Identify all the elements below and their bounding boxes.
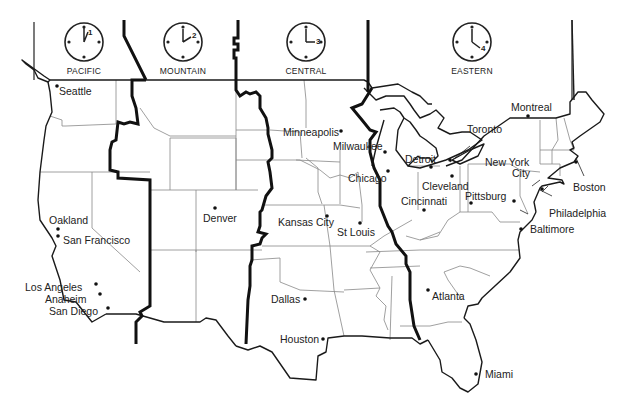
city-label-oakland: Oakland — [49, 215, 88, 226]
zone-label-eastern: EASTERN — [427, 66, 517, 76]
city-label-cincinnati: Cincinnati — [401, 196, 447, 207]
city-label-pittsburg: Pittsburg — [465, 191, 506, 202]
city-label-san-francisco: San Francisco — [63, 235, 130, 246]
city-label-san-diego: San Diego — [49, 306, 98, 317]
clock-eastern — [453, 23, 491, 61]
city-label-houston: Houston — [280, 334, 319, 345]
city-label-kansas-city: Kansas City — [278, 217, 334, 228]
city-label-atlanta: Atlanta — [432, 291, 465, 302]
city-label-minneapolis: Minneapolis — [283, 127, 339, 138]
zone-label-central: CENTRAL — [261, 66, 351, 76]
city-label-cleveland: Cleveland — [422, 181, 469, 192]
city-label-dallas: Dallas — [271, 294, 300, 305]
time-zone-boundaries — [110, 80, 420, 344]
city-label-boston: Boston — [573, 182, 606, 193]
city-label-denver: Denver — [203, 213, 237, 224]
state-borders — [40, 80, 574, 340]
zone-label-pacific: PACIFIC — [39, 66, 129, 76]
city-label-miami: Miami — [485, 369, 513, 380]
city-label-new-york-line2: City — [512, 168, 530, 179]
clock-hour-pacific: 1 — [88, 28, 92, 37]
city-label-los-angeles: Los Angeles — [25, 282, 82, 293]
city-label-seattle: Seattle — [59, 86, 92, 97]
city-label-toronto: Toronto — [467, 124, 502, 135]
city-label-st-louis: St Louis — [337, 227, 375, 238]
zone-label-mountain: MOUNTAIN — [138, 66, 228, 76]
city-label-montreal: Montreal — [511, 102, 552, 113]
clock-hour-mountain: 2 — [192, 31, 196, 40]
clock-hour-eastern: 4 — [481, 44, 485, 53]
city-label-baltimore: Baltimore — [530, 224, 574, 235]
clock-hour-central: 3 — [316, 37, 320, 46]
city-label-chicago: Chicago — [348, 173, 387, 184]
city-label-detroit: Detroit — [405, 154, 436, 165]
city-label-milwaukee: Milwaukee — [333, 141, 383, 152]
clock-mountain — [164, 23, 202, 61]
city-label-philadelphia: Philadelphia — [549, 208, 606, 219]
city-label-anaheim: Anaheim — [45, 294, 86, 305]
time-zone-map — [0, 0, 628, 412]
clock-pacific — [65, 23, 103, 61]
